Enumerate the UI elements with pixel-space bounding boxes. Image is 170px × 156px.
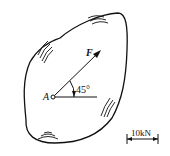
force-label: F [85, 47, 93, 58]
hatch-right [101, 98, 115, 117]
hatch-bottom [38, 132, 58, 139]
rigid-body-diagram: A F 45° 10kN [0, 0, 170, 156]
point-a [51, 95, 55, 99]
rigid-body-outline [24, 13, 127, 143]
scale-label: 10kN [131, 128, 152, 138]
point-a-label: A [42, 91, 50, 102]
hatch-left [38, 41, 53, 63]
angle-label: 45° [76, 84, 90, 95]
